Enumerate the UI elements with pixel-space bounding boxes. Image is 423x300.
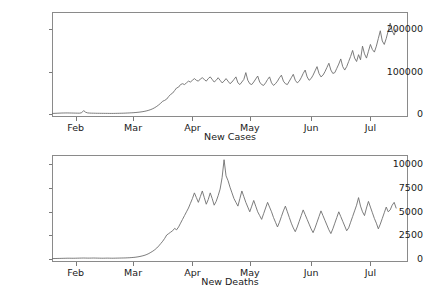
xtick-mark xyxy=(192,117,193,121)
xtick-mark xyxy=(311,117,312,121)
xtick-mark xyxy=(370,262,371,266)
chart-new-deaths xyxy=(52,155,408,262)
ytick-mark xyxy=(49,164,53,165)
xtick-label: Jun xyxy=(304,267,319,278)
xtick-mark xyxy=(76,262,77,266)
xtick-mark xyxy=(133,262,134,266)
xtick-label: Mar xyxy=(124,122,142,133)
ytick-label: 5000 xyxy=(378,207,423,217)
chart-new-cases xyxy=(52,12,408,117)
ytick-label: 100000 xyxy=(378,67,423,77)
xtick-mark xyxy=(133,117,134,121)
xtick-label: Jun xyxy=(304,122,319,133)
xtick-mark xyxy=(250,117,251,121)
matplotlib-figure: 0100000200000 FebMarAprMayJunJul New Cas… xyxy=(0,0,423,300)
ytick-mark xyxy=(49,235,53,236)
xtick-label: Jul xyxy=(365,122,376,133)
line-series-new-cases xyxy=(52,12,408,117)
ytick-mark xyxy=(49,29,53,30)
xtick-mark xyxy=(250,262,251,266)
ytick-label: 0 xyxy=(378,109,423,119)
xtick-mark xyxy=(192,262,193,266)
ytick-label: 2500 xyxy=(378,230,423,240)
xtick-mark xyxy=(76,117,77,121)
ytick-label: 0 xyxy=(378,254,423,264)
ytick-mark xyxy=(49,259,53,260)
xtick-label: Feb xyxy=(67,122,84,133)
line-series-new-deaths xyxy=(52,155,408,262)
ytick-mark xyxy=(49,72,53,73)
xtick-label: Feb xyxy=(67,267,84,278)
xtick-label: Apr xyxy=(184,267,200,278)
xtick-mark xyxy=(311,262,312,266)
ytick-mark xyxy=(49,188,53,189)
ytick-label: 200000 xyxy=(378,24,423,34)
xtick-label: Jul xyxy=(365,267,376,278)
ytick-mark xyxy=(49,114,53,115)
xlabel-new-cases: New Cases xyxy=(204,131,256,142)
ytick-mark xyxy=(49,212,53,213)
xlabel-new-deaths: New Deaths xyxy=(201,276,258,287)
xtick-label: Apr xyxy=(184,122,200,133)
ytick-label: 10000 xyxy=(378,159,423,169)
xtick-mark xyxy=(370,117,371,121)
ytick-label: 7500 xyxy=(378,183,423,193)
xtick-label: Mar xyxy=(124,267,142,278)
